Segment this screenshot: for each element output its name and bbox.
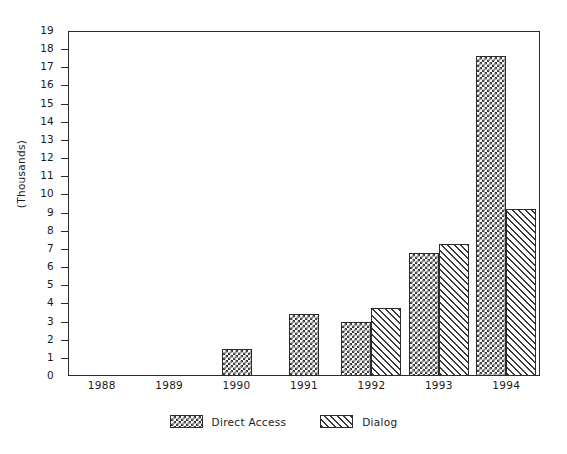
x-axis-tick-label: 1988	[72, 379, 132, 391]
chart-legend: Direct AccessDialog	[0, 415, 567, 428]
y-axis-tick-mark	[61, 158, 68, 159]
y-axis-tick-label: 16	[40, 78, 54, 91]
y-axis-tick-mark	[61, 67, 68, 68]
x-axis-tick-label: 1991	[274, 379, 334, 391]
y-axis-tick-label: 1	[47, 351, 54, 364]
y-axis-tick-mark	[61, 213, 68, 214]
y-axis-tick-label: 14	[40, 115, 54, 128]
y-axis-tick-mark	[61, 176, 68, 177]
y-axis-tick-mark	[61, 267, 68, 268]
y-axis-tick-label: 0	[47, 369, 54, 382]
x-axis-tick-label: 1992	[341, 379, 401, 391]
bar-1990-direct-access	[222, 349, 252, 376]
x-axis-tick-label: 1994	[476, 379, 536, 391]
bar-1993-dialog	[439, 244, 469, 376]
y-axis-tick-mark	[61, 140, 68, 141]
y-axis-tick-label: 18	[40, 42, 54, 55]
y-axis-tick-mark	[61, 285, 68, 286]
y-axis-tick-label: 17	[40, 60, 54, 73]
x-axis-tick-label: 1993	[409, 379, 469, 391]
y-axis-tick-label: 19	[40, 24, 54, 37]
y-axis: 012345678910111213141516171819	[0, 31, 68, 376]
y-axis-tick-mark	[61, 303, 68, 304]
y-axis-tick-mark	[61, 322, 68, 323]
y-axis-tick-label: 7	[47, 242, 54, 255]
bar-1994-dialog	[506, 209, 536, 376]
bar-1992-dialog	[371, 308, 401, 376]
y-axis-tick-mark	[61, 194, 68, 195]
y-axis-tick-label: 12	[40, 151, 54, 164]
y-axis-tick-mark	[61, 85, 68, 86]
y-axis-tick-label: 10	[40, 187, 54, 200]
y-axis-tick-label: 13	[40, 133, 54, 146]
x-axis-tick-label: 1990	[207, 379, 267, 391]
y-axis-tick-label: 11	[40, 169, 54, 182]
bar-1991-direct-access	[289, 314, 319, 376]
y-axis-tick-mark	[61, 122, 68, 123]
y-axis-tick-mark	[61, 340, 68, 341]
x-axis-tick-label: 1989	[139, 379, 199, 391]
y-axis-tick-label: 8	[47, 224, 54, 237]
bar-1994-direct-access	[476, 56, 506, 376]
y-axis-tick-label: 6	[47, 260, 54, 273]
y-axis-tick-label: 2	[47, 333, 54, 346]
bar-1992-direct-access	[341, 322, 371, 376]
y-axis-tick-mark	[61, 104, 68, 105]
y-axis-tick-mark	[61, 358, 68, 359]
legend-label: Dialog	[362, 416, 397, 428]
legend-label: Direct Access	[212, 416, 287, 428]
y-axis-tick-mark	[61, 49, 68, 50]
y-axis-tick-mark	[61, 231, 68, 232]
x-axis: 1988198919901991199219931994	[68, 379, 540, 399]
legend-entry-direct-access: Direct Access	[170, 415, 287, 428]
bar-1993-direct-access	[409, 253, 439, 376]
bars-layer	[68, 31, 540, 376]
y-axis-tick-label: 9	[47, 206, 54, 219]
y-axis-tick-label: 15	[40, 97, 54, 110]
legend-entry-dialog: Dialog	[320, 415, 397, 428]
bar-chart-figure: (Thousands) 0123456789101112131415161718…	[0, 0, 567, 454]
y-axis-tick-mark	[61, 249, 68, 250]
y-axis-tick-label: 4	[47, 296, 54, 309]
y-axis-tick-label: 5	[47, 278, 54, 291]
crosshatch-swatch	[170, 415, 203, 428]
y-axis-tick-label: 3	[47, 315, 54, 328]
diagonal-swatch	[320, 415, 353, 428]
